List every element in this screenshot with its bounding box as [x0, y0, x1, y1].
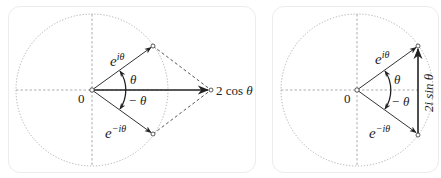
right-figure: 0 eiθ e−iθ θ − θ 2i sin θ: [281, 14, 436, 166]
left-figure: 0 eiθ e−iθ θ − θ 2 cos θ: [16, 14, 253, 166]
parallelogram-side-lower: [153, 90, 211, 134]
origin-label: 0: [344, 91, 351, 106]
point-upper: [416, 44, 420, 48]
point-lower: [151, 132, 155, 136]
origin-point: [355, 88, 359, 92]
point-result: [209, 88, 213, 92]
angle-neg-theta-label: − θ: [391, 94, 410, 109]
upper-vector-label: eiθ: [375, 49, 389, 67]
origin-label: 0: [78, 91, 85, 106]
upper-vector-label: eiθ: [110, 51, 124, 69]
parallelogram-side-upper: [153, 46, 211, 90]
point-upper: [151, 44, 155, 48]
lower-vector-label: e−iθ: [369, 123, 390, 141]
angle-neg-theta-label: − θ: [128, 93, 147, 108]
origin-point: [90, 88, 94, 92]
point-lower: [416, 133, 420, 137]
result-2cos-label: 2 cos θ: [216, 83, 253, 98]
result-2i-sin-label: 2i sin θ: [421, 73, 436, 112]
angle-theta-label: θ: [130, 72, 137, 87]
angle-theta-label: θ: [394, 72, 401, 87]
lower-vector-label: e−iθ: [105, 123, 126, 141]
euler-diagram: 0 eiθ e−iθ θ − θ 2 cos θ 0 eiθ e−iθ θ − …: [0, 0, 441, 178]
